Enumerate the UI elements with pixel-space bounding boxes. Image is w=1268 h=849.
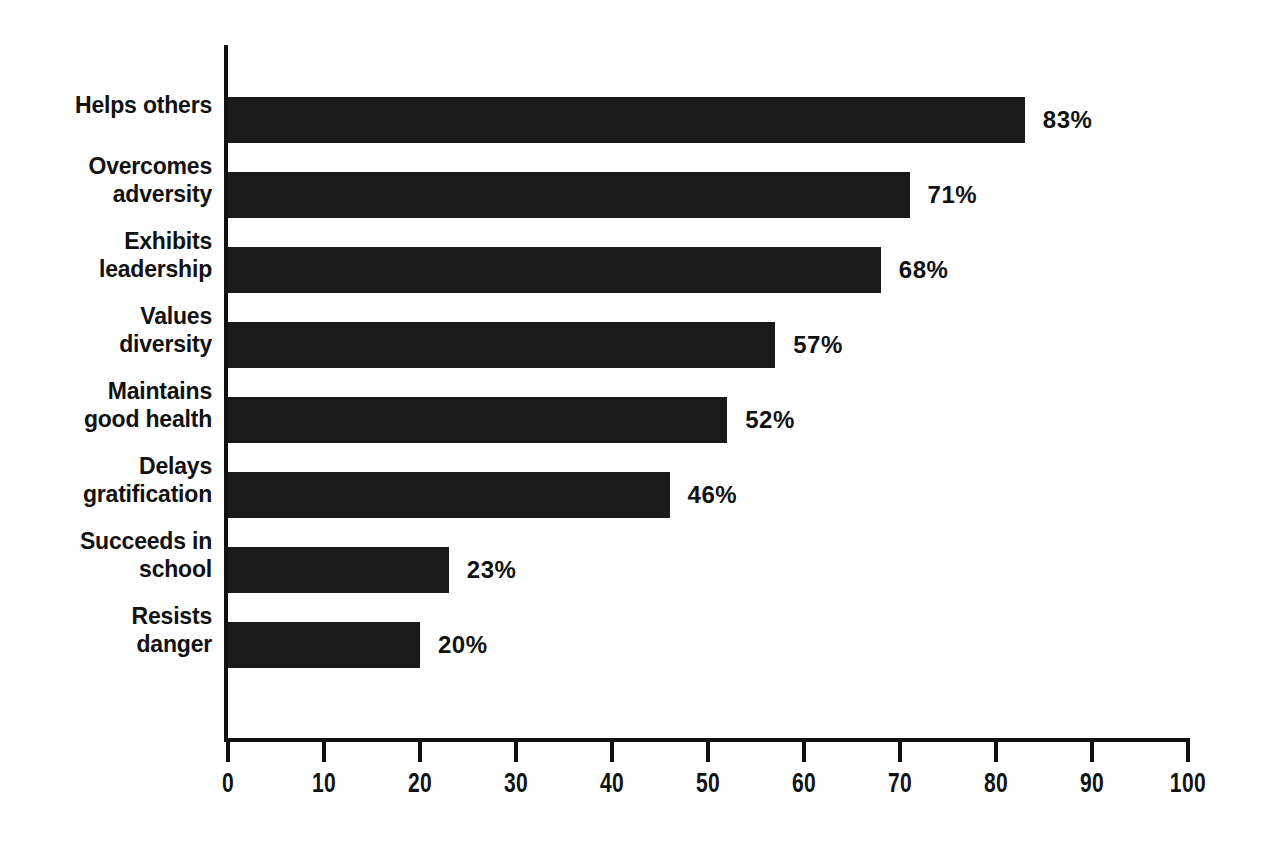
x-axis-tick [322, 742, 326, 762]
x-axis-tick-label: 30 [485, 768, 547, 799]
bar-row: 23% [228, 532, 1188, 607]
category-label: Maintainsgood health [0, 377, 212, 433]
x-axis-tick-label: 40 [581, 768, 643, 799]
bar-row: 57% [228, 307, 1188, 382]
category-label: Resistsdanger [0, 602, 212, 658]
bar [228, 472, 670, 518]
bar-value-label: 20% [438, 622, 488, 668]
x-axis-tick-label: 80 [965, 768, 1027, 799]
bar-value-label: 52% [745, 397, 795, 443]
category-label-line: adversity [0, 180, 212, 208]
category-label-line: Helps others [0, 91, 212, 119]
category-label-line: diversity [0, 330, 212, 358]
x-axis-tick-group: 0102030405060708090100 [228, 742, 1188, 812]
x-axis-tick-label: 70 [869, 768, 931, 799]
x-axis-tick-label: 50 [677, 768, 739, 799]
bar [228, 247, 881, 293]
x-axis-tick [226, 742, 230, 762]
category-label-line: school [0, 555, 212, 583]
bar-value-label: 46% [688, 472, 738, 518]
bar-series: 83%71%68%57%52%46%23%20% [228, 45, 1188, 740]
category-label: Helps others [0, 91, 212, 119]
category-label: Overcomesadversity [0, 152, 212, 208]
x-axis-tick [994, 742, 998, 762]
bar-value-label: 57% [793, 322, 843, 368]
category-label-line: Resists [0, 602, 212, 630]
bar [228, 622, 420, 668]
x-axis-tick [1090, 742, 1094, 762]
x-axis-tick [610, 742, 614, 762]
x-axis-tick-label: 10 [293, 768, 355, 799]
bar [228, 172, 910, 218]
x-axis-tick [1186, 742, 1190, 762]
x-axis-tick [514, 742, 518, 762]
x-axis-tick [418, 742, 422, 762]
category-label: Exhibitsleadership [0, 227, 212, 283]
x-axis-tick-label: 0 [197, 768, 259, 799]
category-label-group: Helps othersOvercomesadversityExhibitsle… [0, 45, 212, 740]
bar-row: 52% [228, 382, 1188, 457]
bar [228, 97, 1025, 143]
category-label-line: Overcomes [0, 152, 212, 180]
category-label-line: leadership [0, 255, 212, 283]
category-label-line: Delays [0, 452, 212, 480]
bar-value-label: 23% [467, 547, 517, 593]
x-axis-tick [706, 742, 710, 762]
chart-page: Helps othersOvercomesadversityExhibitsle… [0, 0, 1268, 849]
x-axis-tick-label: 100 [1157, 768, 1219, 799]
category-label-line: Values [0, 302, 212, 330]
category-label-line: Exhibits [0, 227, 212, 255]
bar [228, 397, 727, 443]
category-label: Delaysgratification [0, 452, 212, 508]
category-label-line: good health [0, 405, 212, 433]
bar-value-label: 71% [928, 172, 978, 218]
category-label: Succeeds inschool [0, 527, 212, 583]
x-axis-tick-label: 20 [389, 768, 451, 799]
bar-row: 46% [228, 457, 1188, 532]
bar-row: 20% [228, 607, 1188, 682]
x-axis-tick-label: 90 [1061, 768, 1123, 799]
x-axis-tick [802, 742, 806, 762]
bar-row: 68% [228, 232, 1188, 307]
category-label-line: Maintains [0, 377, 212, 405]
x-axis-tick [898, 742, 902, 762]
category-label-line: danger [0, 630, 212, 658]
bar-value-label: 68% [899, 247, 949, 293]
category-label-line: gratification [0, 480, 212, 508]
category-label: Valuesdiversity [0, 302, 212, 358]
category-label-line: Succeeds in [0, 527, 212, 555]
bar-row: 83% [228, 82, 1188, 157]
bar [228, 547, 449, 593]
bar [228, 322, 775, 368]
chart-title-clipped [0, 0, 1268, 4]
bar-row: 71% [228, 157, 1188, 232]
x-axis-tick-label: 60 [773, 768, 835, 799]
bar-value-label: 83% [1043, 97, 1093, 143]
